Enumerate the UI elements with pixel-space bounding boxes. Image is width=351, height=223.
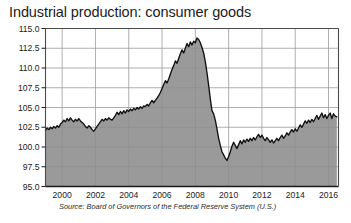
source-caption: Source: Board of Governors of the Federa…: [59, 202, 276, 211]
area-series: [46, 38, 337, 187]
x-axis-tick-label: 2006: [152, 190, 171, 200]
y-axis-tick-label: 95.0: [23, 182, 40, 192]
y-axis-tick-label: 97.5: [23, 162, 40, 172]
y-axis-tick-label: 112.5: [19, 43, 40, 53]
x-axis-tick-label: 2002: [86, 190, 105, 200]
x-axis-tick-label: 2008: [186, 190, 205, 200]
x-axis-tick-label: 2010: [219, 190, 238, 200]
x-axis-tick-label: 2014: [286, 190, 305, 200]
y-axis-tick-label: 102.5: [18, 122, 40, 132]
y-axis-tick-label: 110.0: [19, 63, 40, 73]
x-axis-tick-label: 2016: [319, 190, 338, 200]
y-axis-tick-label: 105.0: [18, 103, 40, 113]
y-axis-tick-label: 115.0: [19, 24, 40, 34]
y-axis-tick-label: 107.5: [18, 83, 40, 93]
industrial-production-area-chart: 95.097.5100.0102.5105.0107.5110.0112.511…: [0, 0, 351, 223]
x-axis-tick-label: 2004: [119, 190, 138, 200]
x-axis-labels: 200020022004200620082010201220142016: [53, 190, 339, 200]
x-axis-tick-label: 2012: [252, 190, 271, 200]
chart-plot-area: 95.097.5100.0102.5105.0107.5110.0112.511…: [0, 0, 351, 223]
y-axis-labels: 95.097.5100.0102.5105.0107.5110.0112.511…: [18, 24, 46, 192]
y-axis-tick-label: 100.0: [18, 142, 40, 152]
x-axis-tick-label: 2000: [53, 190, 72, 200]
chart-card: Industrial production: consumer goods 95…: [0, 0, 351, 223]
